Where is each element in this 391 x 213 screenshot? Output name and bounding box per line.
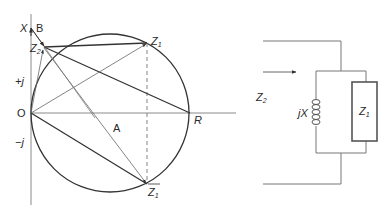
top-lead [263, 41, 341, 71]
label-input-z2: Z2 [255, 91, 267, 104]
inductor-icon [312, 100, 320, 125]
label-r: R [194, 114, 202, 126]
label-plus-j: +j [15, 75, 24, 87]
line-o-z1conj [31, 113, 147, 184]
line-o-z1 [31, 44, 146, 113]
label-jx: jX [296, 107, 308, 119]
bottom-rail [316, 141, 366, 153]
label-minus-j: −j [15, 136, 24, 148]
line-z2-z1 [44, 43, 147, 47]
label-a: A [113, 122, 121, 134]
label-x: X [19, 22, 28, 34]
label-z2: Z2 [29, 42, 41, 55]
label-z1: Z1 [150, 35, 162, 48]
top-rail [316, 71, 366, 82]
circle-diagram: X B Z2 +j O −j A Z1 R Z1 Z2 jX Z1 [0, 0, 391, 213]
label-z1-conjugate: Z1 [147, 186, 159, 199]
label-o: O [17, 107, 26, 119]
parallel-circuit [263, 41, 366, 184]
bottom-lead [263, 153, 341, 184]
label-b: B [36, 22, 43, 34]
line-z2-r [44, 47, 190, 113]
line-o-z2 [31, 50, 43, 113]
